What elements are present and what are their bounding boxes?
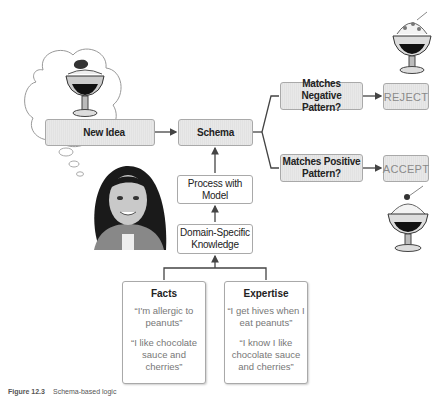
domain-specific-knowledge-node: Domain-Specific Knowledge: [177, 224, 253, 254]
figure-caption: Figure 12.3Schema-based logic: [8, 388, 116, 395]
expertise-title: Expertise: [225, 288, 307, 299]
facts-card: Facts “I'm allergic to peanuts” “I like …: [122, 281, 206, 384]
accept-node: ACCEPT: [383, 155, 429, 182]
reject-node: REJECT: [383, 83, 429, 110]
accept-sundae-illustration: [383, 184, 433, 254]
process-with-model-label: Process with Model: [178, 178, 252, 202]
reject-label: REJECT: [384, 91, 429, 103]
expertise-item: “I know I like chocolate sauce and cherr…: [225, 337, 307, 373]
caption-text: Schema-based logic: [53, 388, 116, 395]
negative-pattern-label: Matches Negative Pattern?: [281, 78, 362, 114]
positive-pattern-node: Matches Positive Pattern?: [280, 154, 363, 182]
negative-pattern-node: Matches Negative Pattern?: [280, 82, 363, 110]
facts-item: “I'm allergic to peanuts”: [123, 305, 205, 329]
expertise-item: “I get hives when I eat peanuts”: [225, 305, 307, 329]
accept-label: ACCEPT: [383, 163, 429, 175]
new-idea-node: New Idea: [45, 119, 155, 146]
expertise-card: Expertise “I get hives when I eat peanut…: [224, 281, 308, 384]
facts-item: “I like chocolate sauce and cherries”: [123, 337, 205, 373]
facts-title: Facts: [123, 288, 205, 299]
schema-node: Schema: [178, 119, 253, 146]
caption-label: Figure 12.3: [8, 388, 45, 395]
domain-specific-knowledge-label: Domain-Specific Knowledge: [178, 227, 252, 251]
process-with-model-node: Process with Model: [177, 175, 253, 204]
positive-pattern-label: Matches Positive Pattern?: [281, 156, 362, 180]
new-idea-label: New Idea: [83, 127, 125, 139]
reject-sundae-illustration: [387, 6, 437, 76]
schema-label: Schema: [197, 127, 234, 139]
girl-portrait-illustration: [80, 160, 176, 250]
